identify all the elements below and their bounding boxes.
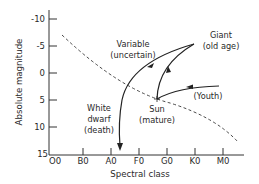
- x-axis-title: Spectral class: [110, 169, 170, 179]
- giant-label: Giant: [210, 30, 233, 40]
- y-tick-label: 15: [37, 149, 48, 159]
- x-tick-label: A0: [105, 156, 116, 166]
- x-ticks: [83, 148, 223, 155]
- y-tick-label: -5: [37, 41, 45, 51]
- variable-sublabel: (uncertain): [110, 50, 155, 60]
- x-tick-label: G0: [161, 156, 173, 166]
- x-tick-label: F0: [134, 156, 144, 166]
- y-tick-label: 10: [34, 122, 45, 132]
- white-dwarf-sublabel: dwarf: [87, 114, 111, 124]
- youth-label: (Youth): [194, 91, 223, 101]
- sun-marker: [154, 96, 160, 102]
- x-tick-label: B0: [77, 156, 88, 166]
- y-ticks: [49, 19, 57, 127]
- y-tick-label: 0: [40, 68, 45, 78]
- variable-label: Variable: [116, 39, 149, 49]
- x-tick-label: M0: [217, 156, 230, 166]
- y-axis-title: Absolute magnitude: [14, 39, 24, 126]
- y-tick-label: -10: [31, 14, 45, 24]
- y-tick-label: 5: [40, 95, 45, 105]
- x-tick-label: O0: [49, 156, 61, 166]
- giant-sublabel: (old age): [203, 41, 240, 51]
- sun-label: Sun: [149, 104, 165, 114]
- sun-sublabel: (mature): [139, 115, 175, 125]
- sun-to-giant-path: [157, 44, 194, 99]
- x-tick-label: K0: [190, 156, 201, 166]
- hr-diagram: -10 -5 0 5 10 15 O0 B0 A0 F0 G0 K0 M0 Sp…: [0, 0, 259, 184]
- y-tick-labels: -10 -5 0 5 10 15: [31, 14, 48, 159]
- arrowhead-icon: [117, 143, 123, 151]
- white-dwarf-note: (death): [84, 125, 114, 135]
- arrowhead-icon: [166, 66, 171, 73]
- white-dwarf-label: White: [87, 103, 111, 113]
- x-tick-labels: O0 B0 A0 F0 G0 K0 M0: [49, 156, 229, 166]
